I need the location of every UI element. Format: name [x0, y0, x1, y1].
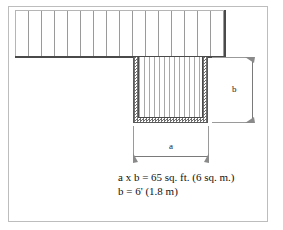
dimension-a: a	[133, 122, 209, 162]
figure-canvas: a b a x b = 65 sq. ft. (6 sq. m.) b = 6'…	[0, 0, 283, 230]
caption-line-2: b = 6' (1.8 m)	[118, 184, 235, 198]
dimension-a-arrow-left	[132, 150, 142, 164]
dimension-b: b	[208, 57, 260, 124]
dimension-a-label: a	[133, 141, 209, 151]
stair-opening	[133, 57, 208, 123]
dimension-a-arrow-right	[203, 150, 213, 164]
dimension-a-line	[133, 156, 209, 157]
caption-line-1: a x b = 65 sq. ft. (6 sq. m.)	[118, 170, 235, 184]
figure-caption: a x b = 65 sq. ft. (6 sq. m.) b = 6' (1.…	[118, 170, 235, 198]
upper-floor-band-top-edge	[15, 10, 225, 11]
dimension-b-arrow-top	[244, 56, 258, 67]
dimension-b-label: b	[232, 84, 237, 94]
upper-floor-band	[15, 10, 225, 57]
upper-floor-band-left-edge	[15, 10, 16, 57]
dimension-b-arrow-bottom	[244, 113, 258, 124]
upper-floor-band-right-edge	[224, 10, 226, 58]
stair-opening-outline	[133, 57, 208, 123]
